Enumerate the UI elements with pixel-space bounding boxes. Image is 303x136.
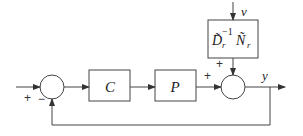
right-summing-junction	[221, 75, 245, 99]
block-diagram: C P D̃ r −1 Ñ r v y + − + +	[0, 0, 303, 136]
output-label: y	[260, 68, 268, 83]
svg-text:D̃: D̃	[211, 33, 222, 48]
svg-text:r: r	[247, 40, 251, 50]
controller-label: C	[105, 79, 116, 95]
plant-label: P	[169, 79, 179, 95]
feedback-path	[52, 87, 270, 125]
svg-text:−1: −1	[222, 26, 233, 37]
right-sum-disturbance-sign: +	[216, 57, 223, 71]
disturbance-label: v	[241, 4, 247, 19]
left-sum-feedback-sign: −	[38, 92, 45, 106]
svg-text:Ñ: Ñ	[235, 32, 246, 48]
svg-text:r: r	[222, 40, 226, 50]
left-sum-input-sign: +	[24, 91, 31, 105]
right-sum-plant-sign: +	[204, 69, 211, 83]
disturbance-filter-label: D̃ r −1 Ñ r	[211, 26, 251, 50]
